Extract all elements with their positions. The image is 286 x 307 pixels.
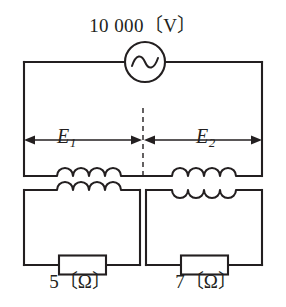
e2-arrow-right: [251, 136, 262, 145]
resistor-right-label: 7〔Ω〕: [146, 272, 266, 291]
voltage-label-e1-symbol: E: [57, 125, 69, 147]
t2-primary-winding: [143, 168, 262, 176]
voltage-label-e1-subscript: 1: [70, 135, 77, 150]
source-voltage-label: 10 000〔V〕: [0, 16, 286, 35]
e1-arrow-left: [24, 136, 35, 145]
t2-secondary-winding: [146, 190, 262, 198]
resistor-left-label: 5〔Ω〕: [20, 272, 140, 291]
e1-arrow-right: [131, 136, 142, 145]
circuit-diagram: 10 000〔V〕 E1 E2 5〔Ω〕 7〔Ω〕: [0, 0, 286, 307]
t1-secondary-winding: [24, 182, 140, 190]
voltage-label-e2: E2: [196, 126, 215, 149]
voltage-label-e2-symbol: E: [196, 125, 208, 147]
circuit-schematic-canvas: [0, 0, 286, 307]
voltage-label-e1: E1: [57, 126, 76, 149]
voltage-label-e2-subscript: 2: [209, 135, 216, 150]
e2-arrow-left: [144, 136, 155, 145]
t1-primary-winding: [24, 168, 143, 176]
